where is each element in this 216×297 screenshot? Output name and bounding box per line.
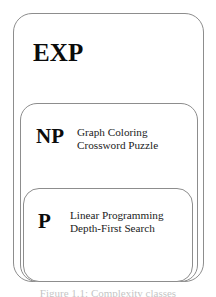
class-region-p <box>23 188 193 282</box>
example-item: Linear Programming <box>70 209 164 222</box>
example-list-np: Graph Coloring Crossword Puzzle <box>77 126 158 152</box>
example-item: Crossword Puzzle <box>77 139 158 152</box>
example-list-p: Linear Programming Depth-First Search <box>70 209 164 235</box>
class-label-p: P <box>38 211 51 232</box>
figure-caption: Figure 1.1: Complexity classes <box>0 287 216 297</box>
example-item: Graph Coloring <box>77 126 158 139</box>
class-label-np: NP <box>36 126 64 147</box>
class-label-exp: EXP <box>33 40 83 65</box>
example-item: Depth-First Search <box>70 222 164 235</box>
complexity-class-diagram: EXP NP P Graph Coloring Crossword Puzzle… <box>0 0 216 297</box>
